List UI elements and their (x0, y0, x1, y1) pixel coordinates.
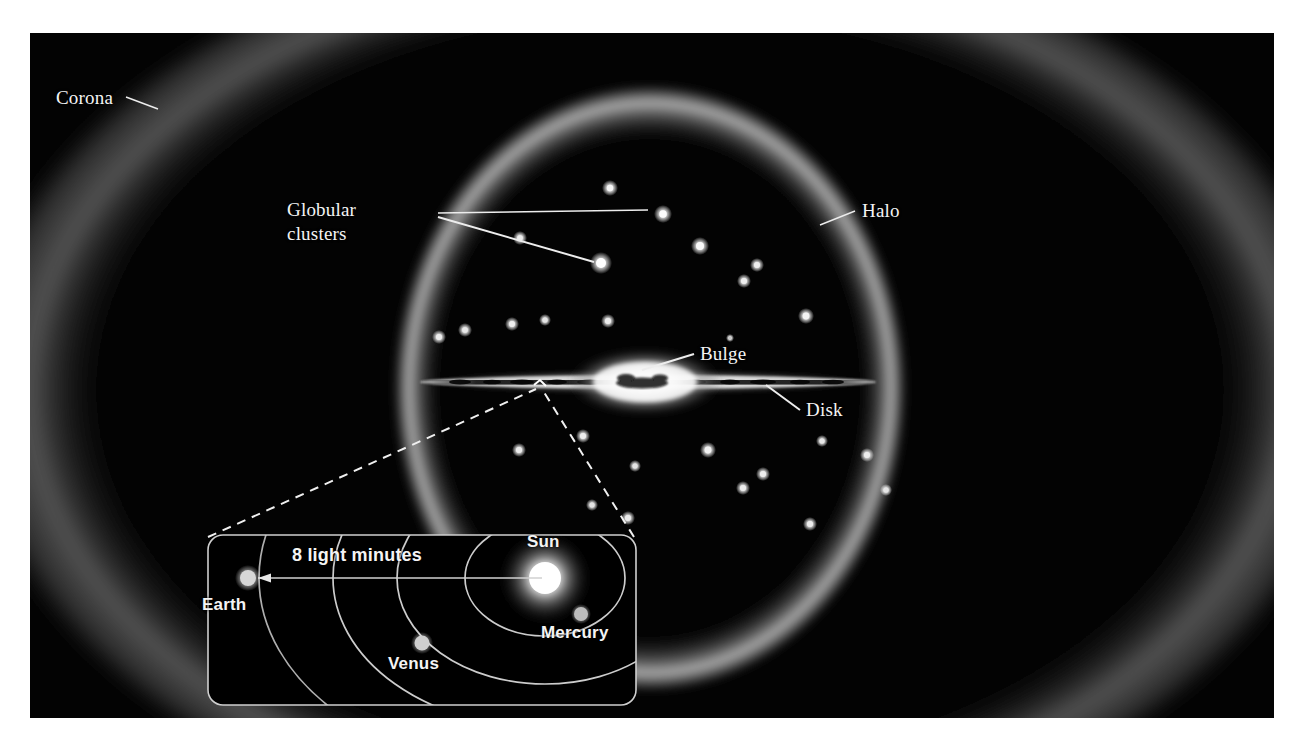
label-venus: Venus (388, 653, 439, 674)
label-earth: Earth (202, 594, 246, 615)
label-halo: Halo (862, 200, 900, 221)
label-bulge: Bulge (700, 343, 746, 364)
figure-page: Corona Halo Globular clusters Bulge Disk… (0, 0, 1299, 741)
label-corona: Corona (56, 87, 113, 108)
label-globular-clusters-line1: Globular (287, 199, 356, 220)
label-globular-clusters-line2: clusters (287, 223, 347, 244)
label-mercury: Mercury (541, 622, 609, 643)
label-layer: Corona Halo Globular clusters Bulge Disk… (30, 33, 1274, 718)
label-light-travel-time: 8 light minutes (292, 545, 422, 566)
label-disk: Disk (806, 399, 843, 420)
label-sun: Sun (527, 531, 560, 552)
figure-plate: Corona Halo Globular clusters Bulge Disk… (30, 33, 1274, 718)
